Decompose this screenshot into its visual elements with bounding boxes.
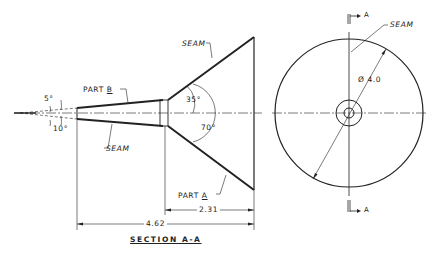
angle-5-label: 5°: [44, 95, 54, 103]
part-a-prefix: PART: [178, 191, 199, 200]
part-a-label: PART A: [178, 192, 208, 200]
angle-35-label: 35°: [186, 96, 201, 104]
section-marker-top: [348, 14, 358, 24]
section-title: SECTION A-A: [130, 236, 202, 244]
angle-10-label: 10°: [53, 125, 68, 133]
diameter-label: Ø 4.0: [358, 76, 381, 84]
dim-4-62-label: 4.62: [144, 220, 167, 228]
seam-label-bottom: SEAM: [106, 145, 130, 153]
leader-part-b: [120, 89, 128, 103]
part-b-prefix: PART: [83, 85, 104, 94]
diameter-line: [313, 49, 386, 179]
section-marker-top-label: A: [364, 12, 369, 19]
section-marker-bottom: [348, 200, 358, 212]
leader-seam-top: [206, 43, 212, 58]
leader-seam-end: [351, 25, 388, 52]
seam-label-end: SEAM: [390, 21, 414, 29]
tip-line-bottom: [20, 113, 77, 119]
tip-line-top: [20, 108, 77, 113]
part-a-cone: [168, 37, 254, 190]
part-b-label: PART B: [83, 86, 113, 94]
part-a-letter: A: [202, 191, 208, 200]
dim-2-31-label: 2.31: [197, 206, 220, 214]
part-b-letter: B: [107, 85, 113, 94]
angle-70-label: 70°: [201, 124, 216, 132]
section-marker-bottom-label: A: [364, 207, 369, 214]
leader-part-a: [216, 175, 226, 194]
seam-label-top: SEAM: [182, 40, 206, 48]
